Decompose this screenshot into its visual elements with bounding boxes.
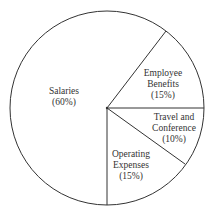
slice-label-employee-benefits: Employee Benefits (15%) bbox=[144, 68, 183, 101]
label-value: (15%) bbox=[112, 171, 150, 182]
label-line: Benefits bbox=[144, 79, 183, 90]
label-value: (15%) bbox=[144, 90, 183, 101]
label-value: (60%) bbox=[49, 97, 79, 108]
label-line: Employee bbox=[144, 68, 183, 79]
label-line: Expenses bbox=[112, 160, 150, 171]
label-line: Travel and bbox=[152, 112, 196, 123]
label-line: Conference bbox=[152, 123, 196, 134]
pie-chart bbox=[0, 0, 213, 218]
label-line: Salaries bbox=[49, 86, 79, 97]
label-value: (10%) bbox=[152, 134, 196, 145]
pie-center bbox=[106, 107, 108, 109]
slice-label-salaries: Salaries (60%) bbox=[49, 86, 79, 108]
label-line: Operating bbox=[112, 149, 150, 160]
slice-label-operating-expenses: Operating Expenses (15%) bbox=[112, 149, 150, 182]
slice-label-travel-conference: Travel and Conference (10%) bbox=[152, 112, 196, 145]
